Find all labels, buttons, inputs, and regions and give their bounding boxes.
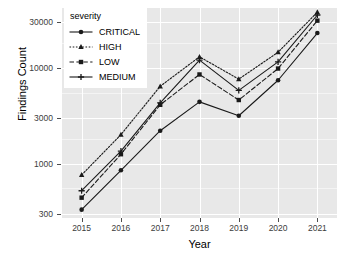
x-tick-label-2021: 2021 [308,223,327,233]
x-tick-label-2019: 2019 [229,223,248,233]
legend: severity CRITICALHIGHLOWMEDIUM [64,8,147,88]
y-tick-mark [57,214,61,215]
x-tick-mark [160,218,161,222]
y-tick-mark [57,68,61,69]
y-tick-label-1000: 1000 [0,159,53,169]
y-tick-mark [57,164,61,165]
y-tick-label-10000: 10000 [0,63,53,73]
legend-label-critical: CRITICAL [99,27,140,37]
data-point-critical-2015 [79,207,84,212]
legend-item-medium[interactable]: MEDIUM [68,69,140,84]
data-point-low-2020 [276,66,280,70]
legend-key-low-icon [68,55,94,69]
legend-label-medium: MEDIUM [99,72,136,82]
legend-key-medium-icon [68,70,94,84]
chart-root: Findings Count Year severity CRITICALHIG… [0,0,353,264]
x-tick-label-2015: 2015 [72,223,91,233]
x-tick-label-2016: 2016 [111,223,130,233]
legend-item-high[interactable]: HIGH [68,39,140,54]
x-axis-title: Year [62,238,337,250]
data-point-low-2018 [197,72,201,76]
y-tick-label-3000: 3000 [0,113,53,123]
x-tick-mark [239,218,240,222]
data-point-critical-2020 [276,78,281,83]
legend-label-low: LOW [99,57,120,67]
x-tick-mark [317,218,318,222]
data-point-critical-2016 [119,168,124,173]
data-point-critical-2017 [158,128,163,133]
data-point-low-2019 [237,98,241,102]
y-tick-mark [57,22,61,23]
data-point-low-2015 [79,195,83,199]
x-tick-label-2018: 2018 [190,223,209,233]
x-tick-mark [200,218,201,222]
x-tick-mark [278,218,279,222]
x-tick-label-2020: 2020 [269,223,288,233]
legend-label-high: HIGH [99,42,122,52]
data-point-critical-2019 [236,113,241,118]
x-tick-mark [121,218,122,222]
data-point-high-2017 [158,83,163,88]
data-point-high-2019 [236,76,241,81]
y-axis-title: Findings Count [16,24,28,144]
data-point-low-2021 [315,18,319,22]
data-point-critical-2021 [315,31,320,36]
x-tick-label-2017: 2017 [151,223,170,233]
legend-item-critical[interactable]: CRITICAL [68,24,140,39]
y-tick-label-300: 300 [0,209,53,219]
legend-key-critical-icon [68,25,94,39]
legend-items: CRITICALHIGHLOWMEDIUM [68,24,140,84]
legend-item-low[interactable]: LOW [68,54,140,69]
legend-title: severity [70,11,140,21]
y-tick-mark [57,118,61,119]
legend-key-high-icon [68,40,94,54]
data-point-critical-2018 [197,100,202,105]
x-tick-mark [82,218,83,222]
y-tick-label-30000: 30000 [0,17,53,27]
